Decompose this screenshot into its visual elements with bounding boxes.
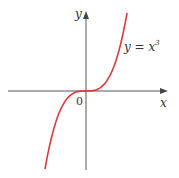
y-axis-label: y <box>75 8 82 20</box>
graph-canvas <box>0 0 179 178</box>
origin-label: 0 <box>76 96 83 107</box>
y-axis-arrow-icon <box>83 11 89 19</box>
curve-label: y = x3 <box>124 41 160 53</box>
curve-label-base: y = x <box>124 40 155 54</box>
cubic-function-graph: y x 0 y = x3 <box>0 0 179 178</box>
curve-label-exponent: 3 <box>155 39 159 47</box>
x-axis-label: x <box>160 97 167 109</box>
x-axis-arrow-icon <box>160 88 168 94</box>
